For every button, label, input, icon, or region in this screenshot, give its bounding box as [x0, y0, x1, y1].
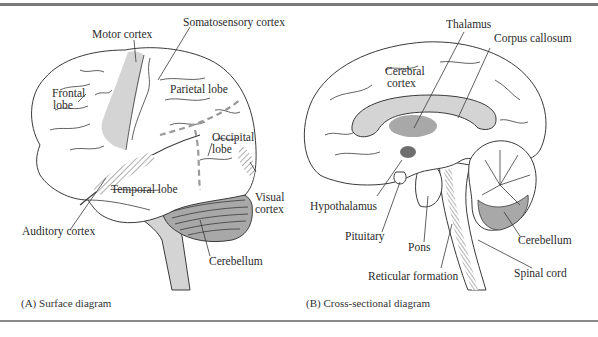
brain-diagrams [0, 0, 598, 337]
hypothalamus-region [400, 146, 416, 158]
label-somatosensory-cortex: Somatosensory cortex [183, 16, 285, 28]
label-cerebral-cortex-line2: cortex [387, 77, 416, 89]
caption-panel-a: (A) Surface diagram [21, 297, 111, 309]
label-cerebral-cortex-line1: Cerebral [385, 65, 425, 77]
label-cerebellum-b: Cerebellum [518, 234, 572, 246]
label-visual-cortex-line2: cortex [255, 203, 284, 215]
label-thalamus: Thalamus [446, 18, 491, 30]
label-occipital-lobe-line1: Occipital [212, 131, 254, 143]
label-auditory-cortex: Auditory cortex [22, 225, 95, 237]
label-pituitary: Pituitary [345, 230, 385, 242]
label-cerebellum-a: Cerebellum [209, 255, 263, 267]
label-reticular-formation: Reticular formation [368, 270, 458, 282]
label-spinal-cord: Spinal cord [514, 267, 567, 279]
label-occipital-lobe-line2: lobe [212, 143, 232, 155]
label-visual-cortex-line1: Visual [255, 191, 284, 203]
label-pons: Pons [408, 241, 430, 253]
caption-panel-b: (B) Cross-sectional diagram [306, 297, 430, 309]
label-temporal-lobe: Temporal lobe [111, 183, 178, 195]
label-corpus-callosum: Corpus callosum [494, 32, 572, 44]
label-parietal-lobe: Parietal lobe [170, 83, 228, 95]
label-hypothalamus: Hypothalamus [310, 200, 377, 212]
label-motor-cortex: Motor cortex [92, 28, 152, 40]
thalamus-region [389, 115, 437, 137]
label-frontal-lobe-line1: Frontal [52, 87, 85, 99]
label-frontal-lobe-line2: lobe [53, 99, 73, 111]
